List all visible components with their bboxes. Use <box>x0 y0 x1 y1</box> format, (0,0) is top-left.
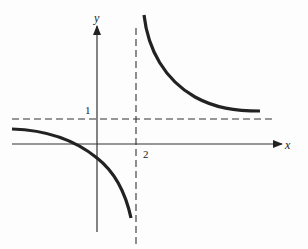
y-axis-label: y <box>93 11 100 25</box>
horizontal-asymptote-label: 1 <box>85 104 91 116</box>
curve-upper-branch <box>144 15 260 111</box>
x-axis-label: x <box>284 138 291 152</box>
graph-figure: y x 1 2 <box>0 0 308 249</box>
curve-lower-branch <box>12 129 131 218</box>
graph-canvas: y x 1 2 <box>0 0 308 249</box>
vertical-asymptote-label: 2 <box>143 148 149 160</box>
